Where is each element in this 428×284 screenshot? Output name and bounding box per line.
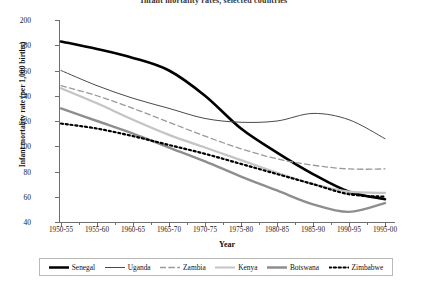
legend-swatch-zimbabwe: [329, 263, 349, 272]
series-line-kenya: [61, 88, 385, 193]
x-tick-minor: [187, 222, 188, 225]
x-tick-label: 1950-55: [49, 226, 73, 234]
legend-label: Senegal: [72, 263, 95, 272]
legend-label: Zambia: [183, 263, 206, 272]
y-tick-label: 160: [1, 66, 31, 75]
chart-legend: SenegalUgandaZambiaKenyaBotswanaZimbabwe: [39, 258, 393, 276]
x-tick-minor: [115, 222, 116, 225]
y-tick-label: 80: [1, 167, 31, 176]
x-tick-label: 1990-95: [337, 226, 361, 234]
series-line-zambia: [61, 86, 385, 170]
plot-area: 200180160140120100806040 1950-551955-601…: [59, 20, 395, 222]
chart-root: Infant mortality rates, selected countri…: [0, 0, 428, 284]
y-tick: [55, 222, 60, 223]
x-tick-minor: [367, 222, 368, 225]
y-tick-label: 100: [1, 142, 31, 151]
y-tick-label: 60: [1, 192, 31, 201]
x-tick-label: 1965-70: [157, 226, 181, 234]
legend-swatch-uganda: [105, 263, 125, 272]
x-tick-label: 1960-65: [121, 226, 145, 234]
legend-swatch-senegal: [49, 263, 69, 272]
series-line-senegal: [61, 41, 385, 199]
x-axis-line: [59, 222, 395, 223]
x-tick-label: 1955-60: [85, 226, 109, 234]
legend-swatch-kenya: [215, 263, 235, 272]
legend-swatch-zambia: [160, 263, 180, 272]
legend-item-kenya[interactable]: Kenya: [215, 263, 257, 272]
legend-label: Kenya: [238, 263, 257, 272]
legend-item-botswana[interactable]: Botswana: [267, 263, 319, 272]
x-tick-minor: [151, 222, 152, 225]
x-tick-minor: [331, 222, 332, 225]
series-layer: [59, 20, 395, 222]
series-line-botswana: [61, 108, 385, 212]
legend-swatch-botswana: [267, 263, 287, 272]
x-tick-label: 1975-80: [229, 226, 253, 234]
series-line-uganda: [61, 71, 385, 139]
y-tick-label: 200: [1, 16, 31, 25]
y-tick-label: 180: [1, 41, 31, 50]
legend-label: Zimbabwe: [352, 263, 384, 272]
x-axis-title: Year: [59, 240, 395, 249]
x-tick-minor: [259, 222, 260, 225]
x-tick-label: 1970-75: [193, 226, 217, 234]
x-tick-minor: [295, 222, 296, 225]
x-tick-minor: [79, 222, 80, 225]
chart-title: Infant mortality rates, selected countri…: [0, 0, 428, 5]
y-tick-label: 40: [1, 218, 31, 227]
x-tick-label: 1995-00: [373, 226, 397, 234]
legend-item-zimbabwe[interactable]: Zimbabwe: [329, 263, 384, 272]
y-tick-label: 140: [1, 91, 31, 100]
legend-item-senegal[interactable]: Senegal: [49, 263, 95, 272]
y-tick-label: 120: [1, 117, 31, 126]
legend-item-uganda[interactable]: Uganda: [105, 263, 151, 272]
x-tick-label: 1980-85: [265, 226, 289, 234]
x-tick-minor: [223, 222, 224, 225]
legend-label: Botswana: [290, 263, 319, 272]
x-tick-label: 1985-90: [301, 226, 325, 234]
legend-item-zambia[interactable]: Zambia: [160, 263, 206, 272]
legend-label: Uganda: [128, 263, 151, 272]
